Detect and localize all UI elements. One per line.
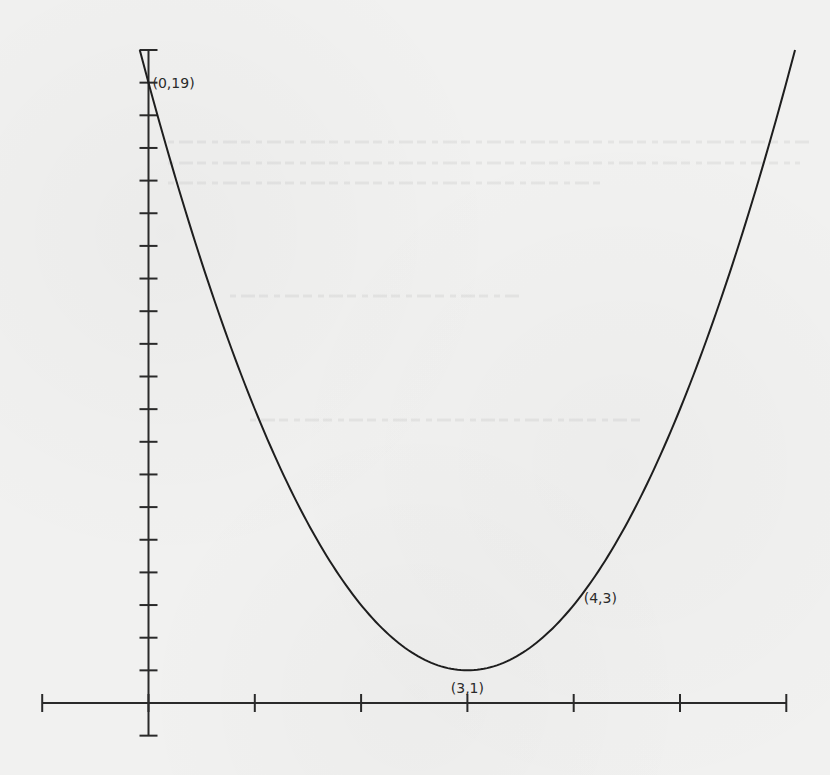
point-label-0-19: (0,19) (153, 75, 195, 91)
bleed-through-text (168, 142, 810, 420)
point-labels: (0,19) (3,1) (4,3) (153, 75, 617, 697)
parabola-graph: (0,19) (3,1) (4,3) (0, 0, 830, 775)
point-label-4-3: (4,3) (584, 590, 617, 606)
axes (42, 50, 786, 736)
point-label-vertex-3-1: (3,1) (451, 680, 484, 696)
